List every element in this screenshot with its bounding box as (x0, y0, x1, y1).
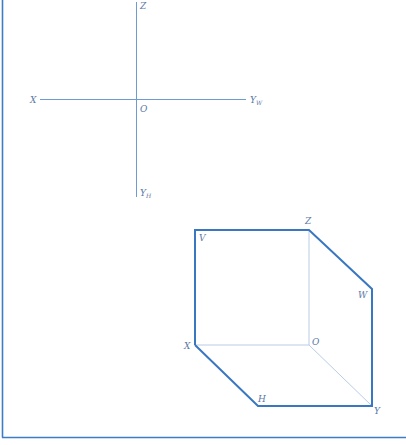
cube-label-w: W (358, 290, 368, 300)
cube-label-x: X (183, 341, 191, 351)
axes-diagram: Z X O YW YH (29, 1, 263, 199)
cube-label-y: Y (374, 406, 381, 416)
origin-label: O (140, 104, 148, 114)
cube-label-v: V (199, 233, 207, 243)
axis-label-yw: YW (250, 95, 263, 106)
axis-label-x: X (29, 95, 37, 105)
projection-figure: Z X O YW YH V Z W X O H Y (0, 0, 406, 445)
cube-inner-edge-oy (309, 345, 372, 406)
axis-label-yh: YH (140, 188, 152, 199)
cube-label-o: O (312, 337, 320, 347)
cube-diagram: V Z W X O H Y (183, 216, 381, 416)
cube-label-z: Z (304, 216, 312, 226)
axis-label-z: Z (139, 1, 147, 11)
cube-label-h: H (257, 394, 266, 404)
